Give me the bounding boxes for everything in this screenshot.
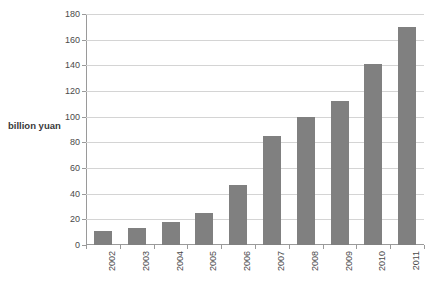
bar[interactable] — [297, 117, 315, 245]
x-tick-mark — [154, 245, 155, 249]
x-tick-mark — [187, 245, 188, 249]
y-tick-mark — [82, 168, 86, 169]
x-tick-mark — [323, 245, 324, 249]
gridline — [86, 40, 424, 41]
y-tick-mark — [82, 194, 86, 195]
y-tick-mark — [82, 91, 86, 92]
bar[interactable] — [263, 136, 281, 245]
x-tick-label: 2003 — [141, 251, 151, 271]
y-tick-label: 160 — [65, 35, 80, 45]
y-tick-label: 120 — [65, 86, 80, 96]
x-tick-mark — [221, 245, 222, 249]
x-tick-label: 2009 — [344, 251, 354, 271]
y-tick-label: 20 — [70, 214, 80, 224]
chart-title — [318, 0, 428, 3]
x-tick-label: 2002 — [107, 251, 117, 271]
gridline — [86, 14, 424, 15]
x-tick-mark — [289, 245, 290, 249]
x-tick-mark — [120, 245, 121, 249]
y-tick-mark — [82, 40, 86, 41]
x-tick-label: 2007 — [276, 251, 286, 271]
bar[interactable] — [162, 222, 180, 245]
y-tick-mark — [82, 219, 86, 220]
y-tick-label: 0 — [75, 240, 80, 250]
y-tick-mark — [82, 142, 86, 143]
x-tick-mark — [424, 245, 425, 249]
bar[interactable] — [229, 185, 247, 245]
x-tick-label: 2011 — [411, 251, 421, 270]
y-tick-label: 100 — [65, 112, 80, 122]
y-tick-mark — [82, 14, 86, 15]
bar[interactable] — [364, 64, 382, 245]
bar[interactable] — [94, 231, 112, 245]
x-tick-label: 2006 — [242, 251, 252, 271]
x-tick-mark — [255, 245, 256, 249]
bar[interactable] — [195, 213, 213, 245]
bar[interactable] — [128, 228, 146, 245]
y-axis-line — [86, 14, 87, 245]
plot-area: 0204060801001201401601802002200320042005… — [86, 14, 424, 245]
y-tick-label: 180 — [65, 9, 80, 19]
y-tick-mark — [82, 117, 86, 118]
y-tick-mark — [82, 65, 86, 66]
bar[interactable] — [398, 27, 416, 245]
bar[interactable] — [331, 101, 349, 245]
y-axis-title: billion yuan — [8, 120, 61, 131]
bar-chart-figure: billion yuan 020406080100120140160180200… — [0, 0, 435, 284]
x-tick-label: 2010 — [377, 251, 387, 271]
x-tick-label: 2005 — [208, 251, 218, 271]
y-tick-label: 60 — [70, 163, 80, 173]
y-tick-label: 140 — [65, 60, 80, 70]
x-tick-label: 2008 — [310, 251, 320, 271]
y-tick-label: 80 — [70, 137, 80, 147]
x-tick-mark — [86, 245, 87, 249]
x-tick-mark — [356, 245, 357, 249]
x-tick-label: 2004 — [175, 251, 185, 271]
x-tick-mark — [390, 245, 391, 249]
y-tick-label: 40 — [70, 189, 80, 199]
